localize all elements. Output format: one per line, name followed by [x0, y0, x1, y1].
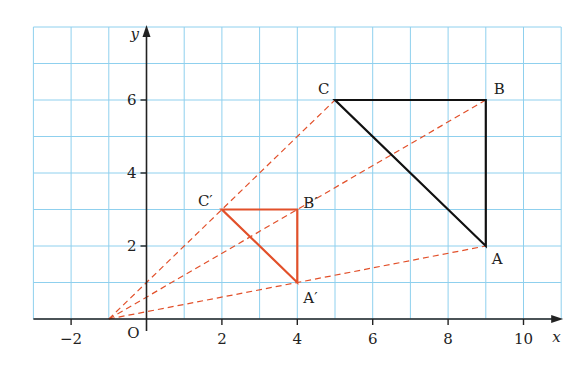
- enlargement-diagram: −2246810246Oxy ABCA′B′C′: [0, 0, 586, 374]
- y-tick-label: 2: [127, 237, 137, 255]
- point-label: C: [318, 80, 329, 98]
- x-tick-label: 6: [368, 330, 378, 348]
- x-tick-label: 10: [514, 330, 533, 348]
- point-labels: ABCA′B′C′: [198, 80, 505, 307]
- y-tick-label: 6: [127, 91, 137, 109]
- x-tick-label: 4: [293, 330, 303, 348]
- origin-label: O: [127, 324, 139, 342]
- y-tick-label: 4: [127, 164, 137, 182]
- point-label: A′: [302, 289, 318, 307]
- point-label: A: [491, 250, 503, 268]
- x-axis-label: x: [552, 328, 561, 346]
- axes: −2246810246Oxy: [33, 25, 563, 348]
- point-label: B′: [303, 194, 318, 212]
- x-tick-label: 8: [443, 330, 453, 348]
- point-label: B: [494, 80, 505, 98]
- y-axis-label: y: [130, 25, 140, 43]
- x-tick-label: −2: [60, 330, 82, 348]
- x-tick-label: 2: [217, 330, 227, 348]
- point-label: C′: [198, 192, 213, 210]
